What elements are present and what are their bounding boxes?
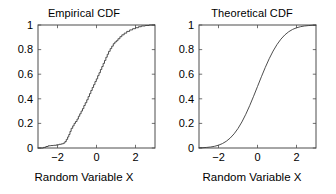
- xlabel-empirical: Random Variable X: [0, 170, 168, 184]
- empirical-cdf-plot: −20200.20.40.60.81: [0, 0, 168, 194]
- y-tick-label: 0: [27, 142, 33, 154]
- panel-theoretical-cdf: Theoretical CDF −20200.20.40.60.81 Rando…: [168, 0, 336, 194]
- y-tick-label: 0.2: [179, 117, 194, 129]
- y-tick-label: 1: [188, 19, 194, 31]
- axis-tick-labels: −20200.20.40.60.81: [18, 19, 139, 163]
- x-tick-label: −2: [212, 151, 225, 163]
- x-tick-label: 0: [254, 151, 260, 163]
- panel-empirical-cdf: Empirical CDF −20200.20.40.60.81 Random …: [0, 0, 168, 194]
- theoretical-cdf-curve: [199, 25, 316, 148]
- y-tick-label: 0.2: [18, 117, 33, 129]
- y-tick-label: 0.8: [179, 43, 194, 55]
- x-tick-label: 0: [93, 151, 99, 163]
- cdf-comparison-figure: Empirical CDF −20200.20.40.60.81 Random …: [0, 0, 336, 194]
- y-tick-label: 0.4: [179, 93, 194, 105]
- axes-box: [38, 25, 155, 148]
- axis-ticks: [38, 25, 155, 148]
- y-tick-label: 0.6: [179, 68, 194, 80]
- theoretical-cdf-plot: −20200.20.40.60.81: [168, 0, 336, 194]
- axis-tick-labels: −20200.20.40.60.81: [179, 19, 300, 163]
- y-tick-label: 1: [27, 19, 33, 31]
- x-tick-label: 2: [293, 151, 299, 163]
- x-tick-label: 2: [132, 151, 138, 163]
- x-tick-label: −2: [51, 151, 64, 163]
- y-tick-label: 0.8: [18, 43, 33, 55]
- y-tick-label: 0.4: [18, 93, 33, 105]
- y-tick-label: 0.6: [18, 68, 33, 80]
- y-tick-label: 0: [188, 142, 194, 154]
- xlabel-theoretical: Random Variable X: [168, 170, 336, 184]
- empirical-cdf-curve: [38, 25, 155, 148]
